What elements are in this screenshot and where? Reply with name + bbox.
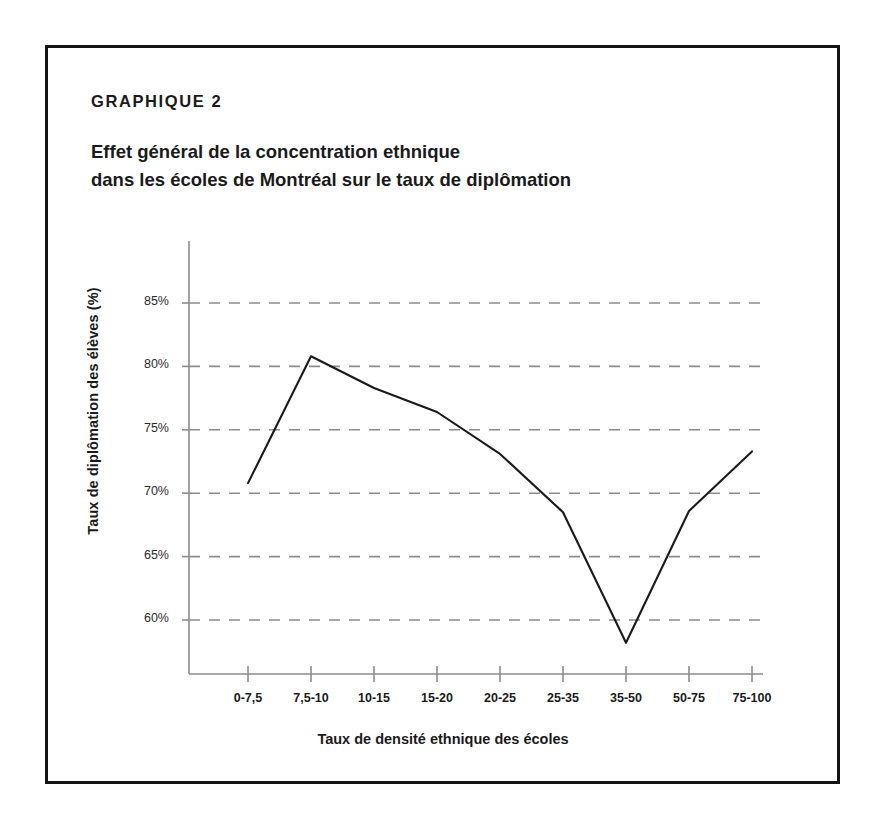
y-tick-label: 80% (121, 357, 169, 371)
y-tick-label: 85% (121, 294, 169, 308)
y-tick-label: 60% (121, 611, 169, 625)
axes-group (189, 241, 763, 674)
figure-frame: GRAPHIQUE 2 Effet général de la concentr… (45, 45, 840, 784)
y-tick-label: 70% (121, 484, 169, 498)
figure-page: GRAPHIQUE 2 Effet général de la concentr… (0, 0, 886, 829)
x-tick-label: 75-100 (717, 691, 787, 705)
data-line-series (248, 356, 752, 643)
y-tick-label: 75% (121, 421, 169, 435)
x-tick-label: 25-35 (528, 691, 598, 705)
x-tick-label: 15-20 (402, 691, 472, 705)
chart-area: Taux de diplômation des élèves (%) Taux … (48, 48, 837, 781)
x-tick-label: 20-25 (465, 691, 535, 705)
y-axis-title: Taux de diplômation des élèves (%) (85, 261, 101, 561)
plot-svg (48, 48, 837, 781)
x-tick-label: 35-50 (591, 691, 661, 705)
x-tick-label: 7,5-10 (276, 691, 346, 705)
x-tick-label: 10-15 (339, 691, 409, 705)
x-tick-label: 50-75 (654, 691, 724, 705)
gridlines-group (189, 303, 763, 620)
y-tick-marks-group (182, 303, 189, 620)
x-tick-label: 0-7,5 (213, 691, 283, 705)
x-axis-title: Taux de densité ethnique des écoles (193, 731, 693, 747)
y-tick-label: 65% (121, 548, 169, 562)
